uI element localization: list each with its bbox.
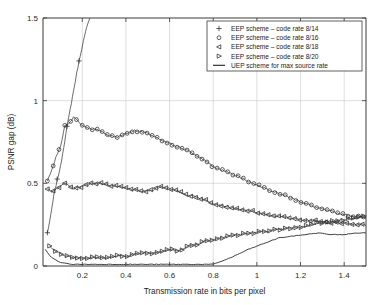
legend-entry-label: EEP scheme – code rate 8/20 — [231, 53, 319, 60]
y-tick-label: 1 — [34, 97, 39, 106]
psnr-gap-chart-figure: 0.20.40.60.811.21.400.511.5 Transmission… — [0, 0, 377, 305]
legend-entry-2: EEP scheme – code rate 8/18 — [217, 43, 319, 50]
x-tick-label: 0.6 — [164, 271, 176, 280]
legend-entry-3: EEP scheme – code rate 8/20 — [217, 53, 319, 60]
x-tick-label: 0.8 — [208, 271, 220, 280]
x-tick-label: 1 — [255, 271, 260, 280]
legend-entry-4: UEP scheme for max source rate — [213, 62, 328, 69]
y-axis-title: PSNR gap (dB) — [7, 114, 16, 171]
legend-entry-label: EEP scheme – code rate 8/18 — [231, 43, 319, 50]
chart-legend: EEP scheme – code rate 8/14EEP scheme – … — [207, 21, 362, 71]
chart-canvas: 0.20.40.60.811.21.400.511.5 Transmission… — [0, 0, 377, 305]
y-tick-label: 0.5 — [27, 179, 39, 188]
legend-entry-1: EEP scheme – code rate 8/16 — [217, 34, 319, 41]
legend-entry-label: EEP scheme – code rate 8/16 — [231, 34, 319, 41]
y-tick-label: 1.5 — [27, 14, 39, 23]
x-tick-label: 1.2 — [295, 271, 307, 280]
y-tick-label: 0 — [34, 262, 39, 271]
x-axis-title: Transmission rate in bits per pixel — [144, 287, 266, 296]
x-tick-label: 1.4 — [339, 271, 351, 280]
legend-entry-0: EEP scheme – code rate 8/14 — [216, 25, 318, 32]
x-tick-label: 0.2 — [77, 271, 89, 280]
legend-entry-label: EEP scheme – code rate 8/14 — [231, 25, 319, 32]
x-tick-label: 0.4 — [120, 271, 132, 280]
legend-entry-label: UEP scheme for max source rate — [231, 62, 328, 69]
